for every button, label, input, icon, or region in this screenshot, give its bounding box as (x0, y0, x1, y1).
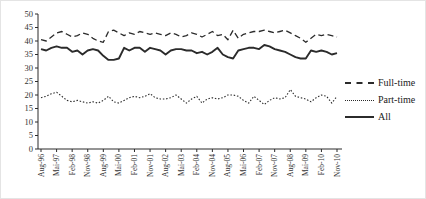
x-tick-label: Aug-08 (286, 154, 295, 177)
legend-item-full-time: Full-time (345, 76, 415, 90)
x-tick-label: Nov-10 (333, 154, 342, 177)
y-tick-label: 25 (25, 76, 34, 86)
x-tick-label: Mai-97 (52, 154, 61, 176)
employment-hours-line-chart: 05101520253035404550Aug-96Mai-97Feb-98No… (0, 0, 426, 199)
x-tick-label: Nov-01 (146, 154, 155, 177)
x-tick-label: Mai-09 (301, 154, 310, 176)
series-line-full-time (41, 30, 337, 42)
x-tick-label: Aug-05 (223, 154, 232, 177)
x-tick-label: Feb-10 (317, 154, 326, 175)
x-tick-label: Mai-06 (239, 154, 248, 176)
x-tick-label: Feb-98 (68, 154, 77, 175)
x-tick-label: Aug-96 (37, 154, 46, 177)
x-tick-label: Mai-00 (114, 154, 123, 176)
y-tick-label: 45 (25, 22, 34, 32)
legend-item-part-time: Part-time (345, 93, 415, 107)
y-tick-label: 30 (25, 63, 34, 73)
x-tick-label: Feb-01 (130, 154, 139, 175)
dashed-line-sample (345, 82, 374, 84)
y-tick-label: 20 (25, 90, 34, 100)
y-tick-label: 35 (25, 49, 34, 59)
y-tick-label: 0 (29, 144, 33, 154)
series-line-all (41, 45, 337, 60)
legend-item-all: All (345, 110, 415, 124)
dotted-line-sample (345, 100, 374, 101)
series-line-part-time (41, 90, 337, 105)
y-tick-label: 50 (25, 9, 34, 19)
x-tick-label: Nov-04 (208, 154, 217, 177)
x-tick-label: Feb-07 (255, 154, 264, 175)
y-tick-label: 5 (29, 130, 33, 140)
x-tick-label: Nov-07 (270, 154, 279, 177)
x-tick-label: Feb-04 (192, 154, 201, 175)
legend-label-part-time: Part-time (378, 95, 415, 105)
y-tick-label: 40 (25, 36, 34, 46)
legend-label-all: All (378, 112, 391, 122)
x-tick-label: Mai-03 (177, 154, 186, 176)
x-tick-label: Aug-99 (99, 154, 108, 177)
y-tick-label: 15 (25, 103, 34, 113)
solid-line-sample (345, 116, 374, 118)
x-tick-label: Aug-02 (161, 154, 170, 177)
chart-legend: Full-time Part-time All (345, 76, 415, 124)
x-tick-label: Nov-98 (83, 154, 92, 177)
y-tick-label: 10 (25, 117, 34, 127)
legend-label-full-time: Full-time (378, 78, 415, 88)
